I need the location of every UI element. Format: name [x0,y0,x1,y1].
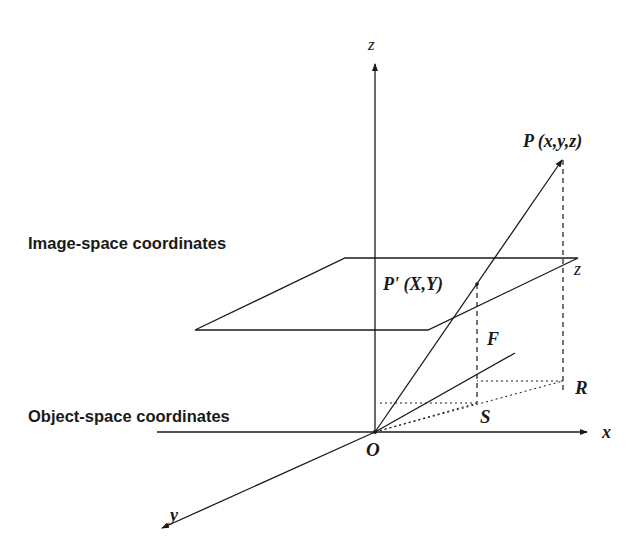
ray-o-to-p [375,160,562,432]
object-space-label: Object-space coordinates [28,407,230,425]
height-z-label: z [573,259,581,279]
origin-marker [373,430,377,434]
z-axis-label: z [367,35,375,54]
x-axis-label: x [601,422,611,442]
point-s-label: S [480,406,491,427]
dotted-o-to-r [375,381,563,432]
diagram-svg: z x y O P (x,y,z) P' (X,Y) z F R S Image… [0,0,640,547]
point-p-label: P (x,y,z) [522,131,582,152]
origin-label: O [366,439,380,460]
point-p-prime-marker [475,282,479,286]
y-axis-line [162,432,375,528]
point-r-label: R [574,377,588,398]
projection-diagram: z x y O P (x,y,z) P' (X,Y) z F R S Image… [0,0,640,547]
image-space-label: Image-space coordinates [28,234,226,252]
dotted-o-to-s [375,403,477,432]
ground-direction-line [375,353,515,432]
y-axis-label: y [168,505,179,525]
image-plane [195,258,578,330]
point-p-prime-label: P' (X,Y) [382,274,443,295]
focal-f-label: F [486,329,499,349]
